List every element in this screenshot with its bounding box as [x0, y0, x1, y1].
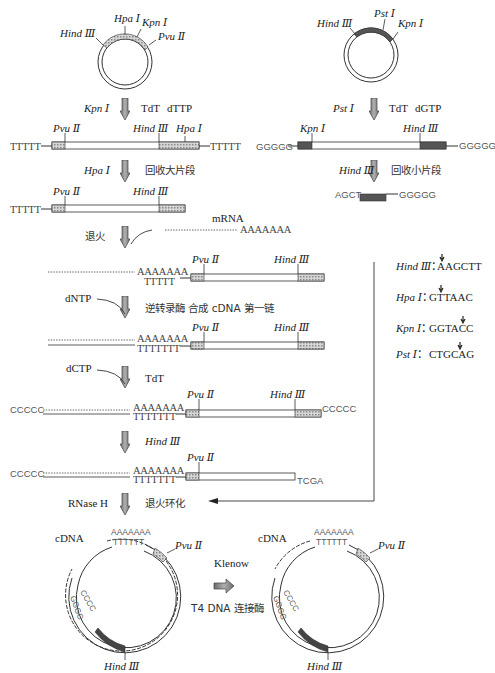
down-arrow-icon: [120, 431, 130, 453]
rstep2-note: 回收小片段: [391, 164, 442, 176]
pst-site-label: Pst Ⅰ: [373, 7, 396, 19]
svg-text:Hind Ⅲ: Hind Ⅲ: [269, 388, 306, 400]
cdna-plasmid-left: cDNA AAAAAAA TTTTTT Pvu Ⅱ Hind Ⅲ GGGG CC…: [55, 527, 203, 672]
down-arrow-icon: [120, 296, 130, 318]
svg-text:TTTTT: TTTTT: [210, 141, 241, 152]
down-arrow-icon: [120, 98, 130, 120]
step2-note: 回收大片段: [145, 164, 196, 176]
svg-text:Hpa Ⅰ: Hpa Ⅰ: [175, 122, 203, 134]
pvu-site-label: Pvu Ⅱ: [157, 30, 186, 42]
svg-text:CCCCC: CCCCC: [322, 403, 356, 414]
svg-text:Hpa Ⅰ：GTTAAC: Hpa Ⅰ：GTTAAC: [395, 291, 473, 303]
svg-text:cDNA: cDNA: [55, 532, 84, 544]
svg-text:Kpn Ⅰ: Kpn Ⅰ: [299, 122, 326, 134]
mrna-polyA: AAAAAAA: [240, 224, 292, 235]
down-arrow-icon: [369, 98, 379, 120]
step4-note: 逆转录酶 合成 cDNA 第一链: [145, 302, 275, 314]
svg-text:Pvu Ⅱ: Pvu Ⅱ: [174, 539, 203, 551]
step3-label: 退火: [85, 230, 106, 242]
step2-enzyme: Hpa Ⅰ: [83, 164, 111, 176]
svg-text:Pvu Ⅱ: Pvu Ⅱ: [186, 388, 215, 400]
svg-text:Hind Ⅲ：AAGCTT: Hind Ⅲ：AAGCTT: [395, 260, 482, 272]
svg-text:Hind Ⅲ: Hind Ⅲ: [132, 122, 169, 134]
fragment-f1: TTTTT TTTTT Pvu Ⅱ Hind Ⅲ Hpa Ⅰ: [10, 122, 241, 152]
svg-text:CCCCC: CCCCC: [10, 404, 44, 415]
cdna-plasmid-right: cDNA AAAAAAA TTTTTT Pvu Ⅱ Hind Ⅲ GGGG CC…: [258, 527, 406, 672]
rstep1-enzyme: Pst Ⅰ: [332, 102, 355, 114]
hind-site-label: Hind Ⅲ: [316, 17, 353, 29]
svg-text:Hind Ⅲ: Hind Ⅲ: [103, 660, 140, 672]
down-arrow-icon: [120, 366, 130, 388]
step1-enzyme: Kpn Ⅰ: [83, 102, 110, 114]
svg-text:AAAAAAA: AAAAAAA: [111, 527, 151, 537]
klenow-label: Klenow: [214, 557, 249, 569]
svg-text:Pvu Ⅱ: Pvu Ⅱ: [186, 451, 215, 463]
svg-text:Hind Ⅲ: Hind Ⅲ: [402, 122, 439, 134]
svg-text:Pst Ⅰ：CTGCAG: Pst Ⅰ：CTGCAG: [395, 348, 474, 360]
right-plasmid: Pst Ⅰ Hind Ⅲ Kpn Ⅰ: [316, 7, 424, 82]
step5-reagent: dCTP: [66, 362, 92, 374]
svg-text:Pvu Ⅱ: Pvu Ⅱ: [191, 321, 220, 333]
rstep2-enzyme: Hind Ⅲ: [338, 164, 375, 176]
svg-text:GGGGG: GGGGG: [399, 189, 436, 200]
hpa-site-label: Hpa Ⅰ: [113, 12, 141, 24]
kpn-site-label: Kpn Ⅰ: [397, 17, 424, 29]
svg-text:AAAAAAA: AAAAAAA: [314, 527, 354, 537]
fragment-g1: GGGGG GGGGG Kpn Ⅰ Hind Ⅲ: [256, 122, 495, 152]
left-plasmid: Hpa Ⅰ Kpn Ⅰ Hind Ⅲ Pvu Ⅱ: [59, 12, 186, 89]
step1-note2: dTTP: [167, 102, 192, 114]
step4-reagent: dNTP: [65, 292, 91, 304]
right-arrow-icon: [214, 579, 234, 593]
arrow-head-icon: [208, 498, 218, 504]
connector-line: [215, 262, 374, 501]
svg-text:Pvu Ⅱ: Pvu Ⅱ: [52, 122, 81, 134]
svg-text:Hind Ⅲ: Hind Ⅲ: [273, 253, 310, 265]
svg-text:CCCCC: CCCCC: [10, 468, 44, 479]
svg-text:Kpn Ⅰ：GGTACC: Kpn Ⅰ：GGTACC: [395, 322, 473, 334]
step1-note1: TdT: [141, 102, 160, 114]
fragment-f5: CCCCC AAAAAAA TTTTTTT CCCCC Pvu Ⅱ Hind Ⅲ: [10, 388, 356, 422]
step5-note: TdT: [145, 372, 164, 384]
svg-text:TTTTTT: TTTTTT: [113, 537, 144, 547]
cloning-diagram: Hpa Ⅰ Kpn Ⅰ Hind Ⅲ Pvu Ⅱ Kpn Ⅰ TdT dTTP …: [0, 0, 495, 673]
rstep1-note2: dGTP: [415, 102, 441, 114]
svg-text:TTTTTTT: TTTTTTT: [137, 343, 181, 354]
step7-reagent: RNase H: [68, 497, 108, 509]
svg-text:AGCT: AGCT: [335, 189, 362, 200]
fragment-g2: AGCT GGGGG: [335, 189, 436, 201]
svg-text:TTTTTT: TTTTTT: [316, 537, 347, 547]
fragment-f2: TTTTT Pvu Ⅱ Hind Ⅲ: [10, 185, 185, 215]
svg-text:Hind Ⅲ: Hind Ⅲ: [273, 321, 310, 333]
fragment-f6: CCCCC AAAAAAA TTTTTTT TCGA Pvu Ⅱ: [10, 451, 324, 486]
step6-enzyme: Hind Ⅲ: [144, 435, 181, 447]
hind-site-label: Hind Ⅲ: [59, 27, 96, 39]
svg-text:TTTTTTT: TTTTTTT: [133, 474, 177, 485]
svg-text:TTTTTTT: TTTTTTT: [133, 411, 177, 422]
svg-text:TCGA: TCGA: [297, 475, 324, 486]
svg-text:Pvu Ⅱ: Pvu Ⅱ: [191, 253, 220, 265]
svg-text:TTTTT: TTTTT: [144, 276, 175, 287]
svg-text:TTTTT: TTTTT: [10, 141, 41, 152]
svg-text:Pvu Ⅱ: Pvu Ⅱ: [377, 539, 406, 551]
svg-text:GGGGG: GGGGG: [256, 141, 293, 152]
mrna-label: mRNA: [212, 212, 244, 224]
step7-note: 退火环化: [145, 497, 186, 509]
down-arrow-icon: [120, 226, 130, 248]
svg-text:cDNA: cDNA: [258, 532, 287, 544]
fragment-f4: AAAAAAA TTTTTTT Pvu Ⅱ Hind Ⅲ: [48, 321, 324, 354]
svg-text:Hind Ⅲ: Hind Ⅲ: [132, 185, 169, 197]
ligase-label: T4 DNA 连接酶: [190, 602, 265, 614]
down-arrow-icon: [120, 493, 130, 515]
svg-text:Hind Ⅲ: Hind Ⅲ: [306, 660, 343, 672]
kpn-site-label: Kpn Ⅰ: [141, 16, 168, 28]
svg-text:GGGGG: GGGGG: [459, 140, 495, 151]
svg-text:TTTTT: TTTTT: [10, 204, 41, 215]
svg-text:Pvu Ⅱ: Pvu Ⅱ: [52, 185, 81, 197]
rstep1-note1: TdT: [389, 102, 408, 114]
recognition-site-legend: Hind Ⅲ：AAGCTT Hpa Ⅰ：GTTAAC Kpn Ⅰ：GGTACC …: [395, 254, 482, 360]
down-arrow-icon: [120, 160, 130, 182]
fragment-f3: AAAAAAA TTTTT Pvu Ⅱ Hind Ⅲ: [48, 253, 324, 287]
